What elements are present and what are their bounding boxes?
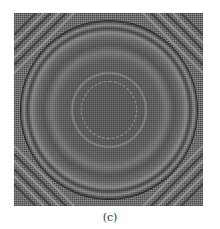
fringe-pattern-image bbox=[14, 13, 203, 206]
concentric-ring-disc bbox=[21, 21, 197, 199]
inner-dashed-ring bbox=[81, 81, 137, 139]
panel-caption: (c) bbox=[0, 211, 220, 224]
